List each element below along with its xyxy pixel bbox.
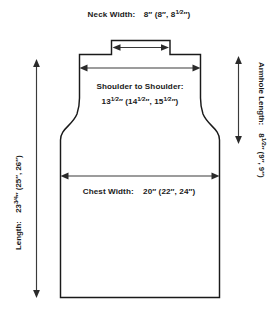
armhole-length-dimension [235, 56, 242, 144]
shoulder-value-tail: ″) [172, 97, 179, 106]
schematic-canvas: Neck Width: 8″ (8″, 81⁄2″) Shoulder to S… [0, 0, 278, 321]
chest-width-value-text: 20″ (22″, 24″) [143, 187, 195, 196]
length-label: Length: 233⁄4″ (25″, 26″) [12, 155, 23, 250]
length-arrow-bottom [33, 290, 40, 298]
neck-width-value-tail: ″) [184, 10, 191, 19]
garment-schematic-diagram: Neck Width: 8″ (8″, 81⁄2″) Shoulder to S… [0, 0, 278, 321]
armhole-label-text: Armhole Length: [257, 62, 266, 125]
length-label-text: Length: [14, 221, 23, 250]
garment-body-outline [61, 41, 220, 298]
neck-width-label-text: Neck Width: [88, 10, 136, 19]
armhole-value-tail: ″ (9″, 9″) [257, 146, 266, 178]
armhole-arrow-top [235, 56, 242, 64]
armhole-length-label-group: Armhole Length: 81⁄2″ (9″, 9″) [257, 62, 268, 178]
armhole-arrow-bottom [235, 136, 242, 144]
length-dimension [33, 59, 40, 298]
length-label-group: Length: 233⁄4″ (25″, 26″) [12, 155, 23, 250]
neck-width-value-text: 8″ (8″, 8 [144, 10, 176, 19]
neck-width-label: Neck Width: 8″ (8″, 81⁄2″) [88, 8, 191, 19]
chest-width-label-text: Chest Width: [83, 187, 134, 196]
length-value-tail: ″ (25″, 26″) [14, 155, 23, 196]
shoulder-value-mid-2: ″, 15 [146, 97, 164, 106]
shoulder-to-shoulder-label: Shoulder to Shoulder: [96, 82, 183, 91]
length-arrow-top [33, 59, 40, 67]
armhole-length-label: Armhole Length: 81⁄2″ (9″, 9″) [257, 62, 268, 178]
shoulder-value-lead: 13 [102, 97, 112, 106]
shoulder-value-mid: ″ (14 [119, 97, 138, 106]
